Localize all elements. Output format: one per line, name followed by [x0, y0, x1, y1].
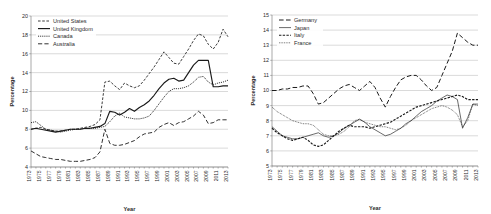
y-tick-label: 12	[22, 88, 28, 94]
y-tick-label: 10	[22, 107, 28, 113]
x-tick-label: 1995	[134, 170, 140, 181]
y-axis: 56789101112131415	[263, 12, 272, 169]
legend-label-japan: Japan	[294, 25, 309, 31]
x-tick-label: 1995	[380, 169, 386, 180]
legend: GermanyJapanItalyFrance	[277, 17, 323, 49]
y-tick-label: 10	[263, 87, 269, 93]
x-axis: 1973197519771979198119831985198719891991…	[267, 166, 479, 181]
y-tick-label: 11	[263, 72, 269, 78]
x-tick-label: 2001	[164, 170, 170, 181]
x-tick-label: 1973	[267, 169, 273, 180]
y-tick-label: 14	[263, 27, 269, 33]
x-tick-label: 1985	[329, 169, 335, 180]
chart-panel-right: 5678910111213141519731975197719791981198…	[245, 0, 491, 214]
y-tick-label: 14	[22, 70, 28, 76]
y-tick-label: 13	[263, 42, 269, 48]
x-tick-label: 2005	[432, 169, 438, 180]
x-tick-label: 1991	[360, 169, 366, 180]
y-axis-title: Percentage	[250, 75, 256, 105]
legend-label-united-states: United States	[53, 18, 87, 24]
x-tick-label: 2003	[174, 170, 180, 181]
series-line-canada	[31, 76, 228, 132]
legend-label-united-kingdom: United Kingdom	[53, 26, 93, 32]
x-tick-label: 1973	[26, 170, 32, 181]
series-line-japan	[272, 95, 478, 139]
y-tick-label: 6	[25, 145, 28, 151]
x-tick-label: 1983	[319, 169, 325, 180]
y-tick-label: 6	[266, 148, 269, 154]
x-tick-label: 1981	[65, 170, 71, 181]
x-tick-label: 1975	[36, 170, 42, 181]
x-tick-label: 1985	[85, 170, 91, 181]
legend-label-canada: Canada	[53, 33, 73, 39]
y-tick-label: 16	[22, 51, 28, 57]
legend-label-germany: Germany	[294, 17, 317, 23]
x-tick-label: 1993	[125, 170, 131, 181]
left-chart-svg: 4681012141618201973197519771979198119831…	[0, 0, 245, 214]
x-tick-label: 1991	[115, 170, 121, 181]
legend: United StatesUnited KingdomCanadaAustral…	[36, 18, 96, 50]
legend-label-australia: Australia	[53, 41, 76, 47]
x-tick-label: 2011	[213, 170, 219, 181]
x-tick-label: 1999	[401, 169, 407, 180]
x-axis-title: Year	[369, 205, 382, 211]
x-tick-label: 2003	[422, 169, 428, 180]
series-group	[272, 33, 478, 146]
y-axis: 468101214161820	[22, 13, 31, 170]
x-tick-label: 1989	[349, 169, 355, 180]
legend-label-italy: Italy	[294, 32, 304, 38]
x-tick-label: 1977	[46, 170, 52, 181]
x-tick-label: 1989	[105, 170, 111, 181]
y-tick-label: 18	[22, 32, 28, 38]
y-tick-label: 7	[266, 133, 269, 139]
x-tick-label: 1983	[75, 170, 81, 181]
y-tick-label: 12	[263, 57, 269, 63]
y-tick-label: 5	[266, 163, 269, 169]
x-tick-label: 1993	[370, 169, 376, 180]
x-tick-label: 2009	[203, 170, 209, 181]
x-tick-label: 1997	[144, 170, 150, 181]
x-tick-label: 2013	[473, 169, 479, 180]
two-panel-line-chart-figure: 4681012141618201973197519771979198119831…	[0, 0, 491, 214]
x-axis: 1973197519771979198119831985198719891991…	[26, 167, 229, 182]
x-tick-label: 1997	[391, 169, 397, 180]
x-tick-label: 1977	[288, 169, 294, 180]
y-tick-label: 8	[25, 126, 28, 132]
y-tick-label: 4	[25, 164, 28, 170]
x-tick-label: 2007	[442, 169, 448, 180]
y-tick-label: 20	[22, 13, 28, 19]
x-tick-label: 1987	[339, 169, 345, 180]
x-tick-label: 2005	[184, 170, 190, 181]
x-tick-label: 1987	[95, 170, 101, 181]
chart-panel-left: 4681012141618201973197519771979198119831…	[0, 0, 245, 214]
y-tick-label: 9	[266, 103, 269, 109]
series-line-australia	[31, 111, 228, 161]
y-tick-label: 8	[266, 118, 269, 124]
x-tick-label: 2007	[193, 170, 199, 181]
series-line-united-kingdom	[31, 60, 228, 132]
y-axis-title: Percentage	[9, 76, 15, 106]
y-tick-label: 15	[263, 12, 269, 18]
x-tick-label: 1975	[277, 169, 283, 180]
x-tick-label: 1979	[56, 170, 62, 181]
right-chart-svg: 5678910111213141519731975197719791981198…	[245, 0, 491, 214]
legend-label-france: France	[294, 40, 311, 46]
series-line-france	[272, 104, 478, 136]
x-tick-label: 2013	[223, 170, 229, 181]
x-tick-label: 1979	[298, 169, 304, 180]
x-tick-label: 1981	[308, 169, 314, 180]
x-tick-label: 2001	[411, 169, 417, 180]
x-tick-label: 2009	[452, 169, 458, 180]
x-axis-title: Year	[124, 206, 137, 212]
x-tick-label: 1999	[154, 170, 160, 181]
x-tick-label: 2011	[463, 169, 469, 180]
